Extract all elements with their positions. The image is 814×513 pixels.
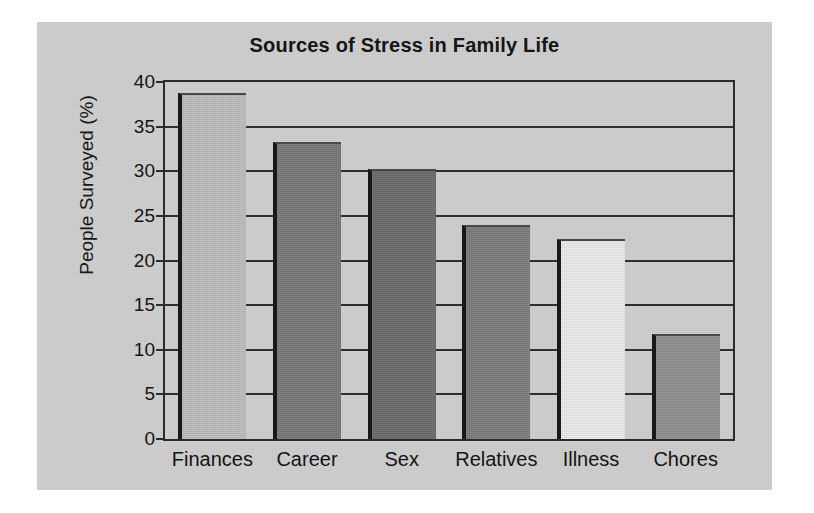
y-tick-label: 25 <box>134 205 155 227</box>
y-tick-label: 0 <box>144 428 155 450</box>
bar-texture <box>372 171 436 439</box>
figure-panel: Sources of Stress in Family Life People … <box>37 22 772 490</box>
y-tick-mark <box>156 438 165 440</box>
bar-chores <box>652 334 720 439</box>
x-category-label-finances: Finances <box>172 448 253 471</box>
bar-finances <box>178 93 246 439</box>
y-tick-label: 20 <box>134 250 155 272</box>
bar-career <box>273 142 341 439</box>
y-tick-mark <box>156 304 165 306</box>
y-tick-mark <box>156 349 165 351</box>
chart-title: Sources of Stress in Family Life <box>37 34 772 57</box>
y-tick-label: 10 <box>134 339 155 361</box>
x-category-label-relatives: Relatives <box>455 448 537 471</box>
y-tick-label: 30 <box>134 160 155 182</box>
x-category-label-sex: Sex <box>384 448 418 471</box>
y-tick-label: 40 <box>134 71 155 93</box>
bar-texture <box>277 144 341 439</box>
bar-series <box>165 82 733 439</box>
x-category-label-career: Career <box>276 448 337 471</box>
bar-illness <box>557 239 625 439</box>
bar-texture <box>466 227 530 439</box>
y-tick-label: 5 <box>144 383 155 405</box>
bar-texture <box>656 336 720 439</box>
y-tick-label: 35 <box>134 116 155 138</box>
y-tick-mark <box>156 81 165 83</box>
y-axis-title: People Surveyed (%) <box>76 75 98 295</box>
y-tick-mark <box>156 260 165 262</box>
bar-texture <box>182 95 246 439</box>
x-category-label-illness: Illness <box>563 448 620 471</box>
y-tick-mark <box>156 393 165 395</box>
plot-area: 0510152025303540FinancesCareerSexRelativ… <box>163 80 735 441</box>
x-category-label-chores: Chores <box>653 448 717 471</box>
chart-page: Sources of Stress in Family Life People … <box>0 0 814 513</box>
y-tick-mark <box>156 170 165 172</box>
bar-sex <box>368 169 436 439</box>
y-tick-mark <box>156 126 165 128</box>
bar-texture <box>561 241 625 439</box>
bar-relatives <box>462 225 530 439</box>
y-tick-mark <box>156 215 165 217</box>
y-tick-label: 15 <box>134 294 155 316</box>
